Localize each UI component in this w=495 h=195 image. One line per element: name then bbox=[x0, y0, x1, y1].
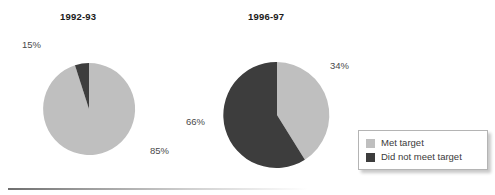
slice-label-met-target-1996-97: 34% bbox=[330, 60, 349, 71]
slice-label-did-not-meet-target-1992-93: 15% bbox=[22, 39, 41, 50]
pie-slice-met-target-1992-93 bbox=[43, 63, 135, 155]
legend-label-did-not-meet-target: Did not meet target bbox=[381, 152, 462, 162]
legend-label-met-target: Met target bbox=[381, 138, 424, 148]
legend-item-did-not-meet-target: Did not meet target bbox=[366, 150, 481, 164]
slice-label-did-not-meet-target-1996-97: 66% bbox=[186, 116, 205, 127]
chart-legend: Met target Did not meet target bbox=[358, 130, 488, 170]
panel-title-1996-97: 1996-97 bbox=[248, 11, 284, 22]
pie-chart-1996-97 bbox=[224, 62, 330, 168]
legend-item-met-target: Met target bbox=[366, 136, 481, 150]
legend-swatch-met-target-icon bbox=[366, 139, 375, 148]
pie-svg-1996-97 bbox=[224, 62, 330, 168]
pie-chart-1992-93 bbox=[43, 63, 135, 155]
pie-svg-1992-93 bbox=[43, 63, 135, 155]
footer-divider bbox=[8, 188, 308, 190]
pie-chart-figure: 1992-93 15% 85% 1996-97 34% 66% Met targ… bbox=[0, 0, 495, 195]
legend-swatch-did-not-meet-target-icon bbox=[366, 153, 375, 162]
panel-title-1992-93: 1992-93 bbox=[60, 11, 96, 22]
slice-label-met-target-1992-93: 85% bbox=[150, 145, 169, 156]
